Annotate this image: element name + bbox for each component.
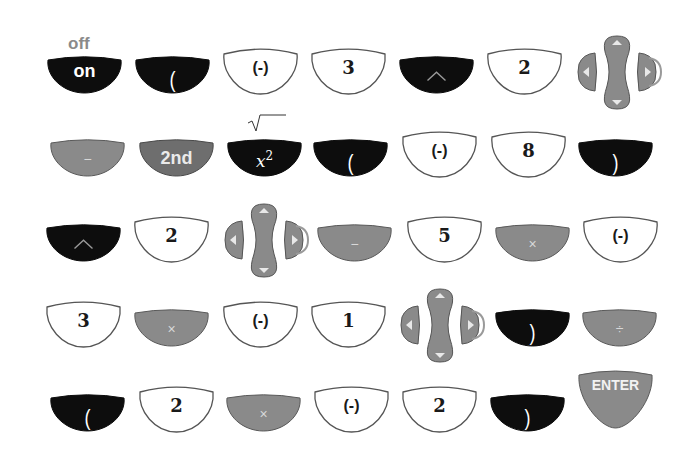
key-caret[interactable] bbox=[398, 56, 475, 93]
sqrt-label bbox=[246, 113, 288, 138]
key-neg[interactable]: (-) bbox=[222, 301, 299, 347]
off-label: off bbox=[68, 34, 90, 54]
key-second[interactable]: 2nd bbox=[138, 139, 215, 176]
key-eight[interactable]: 8 bbox=[490, 131, 567, 177]
key-rparen[interactable]: ) bbox=[577, 139, 654, 176]
caret-icon bbox=[45, 224, 122, 261]
superscript: 2 bbox=[265, 149, 273, 163]
key-label: ENTER bbox=[592, 378, 639, 392]
dpad-updown-key[interactable] bbox=[604, 36, 629, 109]
key-label: ( bbox=[170, 67, 176, 90]
key-neg[interactable]: (-) bbox=[313, 386, 390, 432]
key-label: × bbox=[259, 407, 267, 421]
sqrt-icon bbox=[246, 113, 288, 133]
key-label: 1 bbox=[342, 312, 355, 330]
key-label: (-) bbox=[253, 313, 269, 329]
key-label: × bbox=[167, 322, 175, 336]
dpad-updown-key[interactable] bbox=[427, 289, 452, 362]
dpad-left-key[interactable] bbox=[401, 306, 420, 344]
key-two[interactable]: 2 bbox=[401, 386, 478, 432]
key-rparen[interactable]: ) bbox=[494, 309, 571, 346]
key-five[interactable]: 5 bbox=[406, 216, 483, 262]
dpad-arrow-keys[interactable] bbox=[222, 202, 312, 278]
key-label: − bbox=[350, 237, 358, 251]
key-rparen[interactable]: ) bbox=[489, 394, 566, 431]
key-label: 3 bbox=[342, 59, 355, 77]
key-two[interactable]: 2 bbox=[138, 386, 215, 432]
key-label: (-) bbox=[432, 143, 448, 159]
key-two[interactable]: 2 bbox=[133, 216, 210, 262]
key-label: on bbox=[74, 62, 96, 80]
key-caret[interactable] bbox=[45, 224, 122, 261]
key-times[interactable]: × bbox=[494, 224, 571, 261]
key-minus[interactable]: − bbox=[49, 139, 126, 176]
key-three[interactable]: 3 bbox=[45, 301, 122, 347]
dpad-left-key[interactable] bbox=[225, 221, 244, 259]
key-lparen[interactable]: ( bbox=[134, 56, 211, 93]
key-label: ) bbox=[613, 150, 619, 173]
key-neg[interactable]: (-) bbox=[582, 216, 659, 262]
key-label: x2 bbox=[256, 150, 273, 170]
key-minus[interactable]: − bbox=[316, 224, 393, 261]
key-enter[interactable]: ENTER bbox=[577, 370, 654, 428]
dpad-left-key[interactable] bbox=[578, 53, 597, 91]
key-label: 2 bbox=[433, 397, 446, 415]
caret-icon bbox=[398, 56, 475, 93]
key-label: 2 bbox=[170, 397, 183, 415]
dpad-updown-key[interactable] bbox=[251, 204, 276, 277]
key-one[interactable]: 1 bbox=[310, 301, 387, 347]
key-two[interactable]: 2 bbox=[486, 48, 563, 94]
key-label: ÷ bbox=[616, 322, 624, 336]
key-label: 3 bbox=[77, 312, 90, 330]
key-label: 5 bbox=[438, 227, 451, 245]
key-label: 2 bbox=[518, 59, 531, 77]
key-label: (-) bbox=[253, 60, 269, 76]
dpad-arrow-keys[interactable] bbox=[575, 34, 665, 110]
key-lparen[interactable]: ( bbox=[49, 394, 126, 431]
key-divide[interactable]: ÷ bbox=[581, 309, 658, 346]
key-label: − bbox=[83, 152, 91, 166]
key-label: (-) bbox=[344, 398, 360, 414]
key-xsquared[interactable]: x2 bbox=[226, 139, 303, 176]
key-label: 2nd bbox=[160, 149, 192, 167]
key-neg[interactable]: (-) bbox=[222, 48, 299, 94]
key-times[interactable]: × bbox=[133, 309, 210, 346]
key-label: ) bbox=[530, 320, 536, 343]
key-neg[interactable]: (-) bbox=[401, 131, 478, 177]
dpad-right-key[interactable] bbox=[638, 53, 662, 91]
dpad-arrow-keys[interactable] bbox=[398, 287, 488, 363]
key-label: 2 bbox=[165, 227, 178, 245]
key-label: × bbox=[528, 237, 536, 251]
key-three[interactable]: 3 bbox=[310, 48, 387, 94]
key-label: 8 bbox=[522, 142, 535, 160]
key-lparen[interactable]: ( bbox=[312, 139, 389, 176]
key-times[interactable]: × bbox=[225, 394, 302, 431]
dpad-right-key[interactable] bbox=[285, 221, 309, 259]
key-label: ( bbox=[348, 150, 354, 173]
key-label: ( bbox=[85, 405, 91, 428]
dpad-right-key[interactable] bbox=[461, 306, 485, 344]
key-label: (-) bbox=[613, 228, 629, 244]
key-on[interactable]: on bbox=[46, 56, 123, 93]
key-label: ) bbox=[525, 405, 531, 428]
